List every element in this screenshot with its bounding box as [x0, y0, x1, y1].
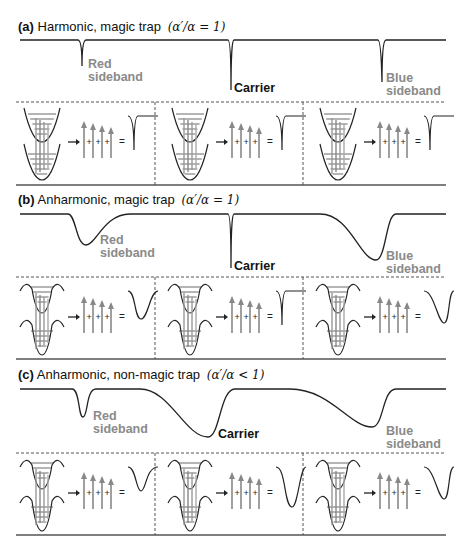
- blue-sideband-label: Bluesideband: [386, 72, 441, 98]
- carrier-label: Carrier: [234, 260, 275, 273]
- red-sideband-label: Redsideband: [88, 58, 143, 84]
- spectrum-plot: [0, 190, 460, 365]
- panel-c: (c) Anharmonic, non-magic trap (α′/α < 1…: [0, 365, 460, 548]
- spectrum-plot: [0, 365, 460, 548]
- red-sideband-label: Redsideband: [93, 410, 148, 436]
- panel-a: (a) Harmonic, magic trap (α′/α = 1) Reds…: [0, 0, 460, 190]
- red-sideband-label: Redsideband: [100, 234, 155, 260]
- panel-b: (b) Anharmonic, magic trap (α′/α = 1) Re…: [0, 190, 460, 365]
- carrier-label: Carrier: [218, 428, 259, 441]
- carrier-label: Carrier: [234, 82, 275, 95]
- blue-sideband-label: Bluesideband: [386, 425, 441, 451]
- blue-sideband-label: Bluesideband: [386, 250, 441, 276]
